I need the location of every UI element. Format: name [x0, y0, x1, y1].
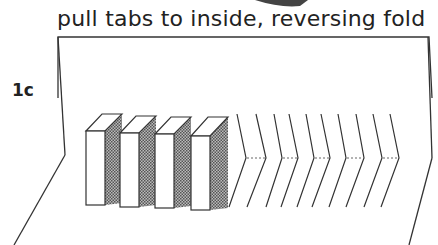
previous-step-fragment — [255, 0, 308, 6]
reversed-folds — [229, 114, 399, 207]
raised-tabs — [86, 114, 228, 210]
pop-up-card-figure — [0, 0, 438, 245]
